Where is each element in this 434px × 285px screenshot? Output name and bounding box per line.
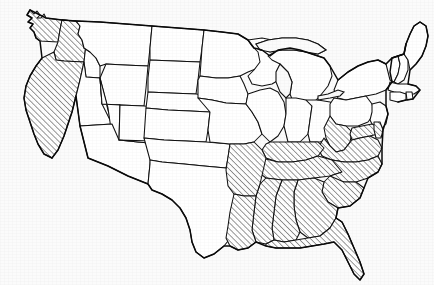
state-south-dakota[interactable]: [148, 60, 200, 94]
state-kansas[interactable]: [144, 108, 210, 142]
us-states-map: [0, 0, 434, 285]
state-wyoming[interactable]: [100, 64, 148, 106]
map-container: Map of the contiguous United States Blac…: [0, 0, 434, 285]
state-north-dakota[interactable]: [150, 26, 204, 62]
state-pennsylvania[interactable]: [330, 96, 374, 126]
